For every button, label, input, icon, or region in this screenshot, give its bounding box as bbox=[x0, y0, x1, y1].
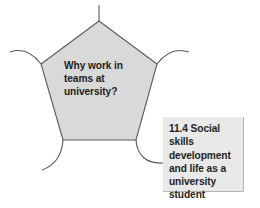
diagram-canvas: Why work in teams at university? 11.4 So… bbox=[0, 0, 260, 208]
callout-box-label: 11.4 Social skills development and life … bbox=[169, 122, 241, 202]
bottom-right-connector-curve bbox=[136, 140, 163, 163]
pentagon-question-text: Why work in teams at university? bbox=[64, 59, 150, 99]
left-connector-curve bbox=[10, 51, 41, 65]
right-connector-curve bbox=[157, 51, 189, 65]
callout-box[interactable]: 11.4 Social skills development and life … bbox=[163, 117, 244, 192]
bottom-left-connector-curve bbox=[42, 140, 63, 170]
